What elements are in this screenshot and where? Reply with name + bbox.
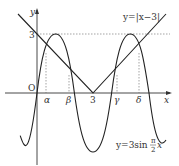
- x-axis-label: x: [164, 95, 169, 105]
- gamma-label: γ: [114, 95, 120, 105]
- graph: y x O 3 3 α β γ δ y=|x−3| y=3sin π 2 x: [0, 0, 179, 166]
- svg-text:π: π: [151, 137, 156, 145]
- sine-curve-label: y=3sin π 2 x: [115, 137, 162, 154]
- delta-label: δ: [136, 95, 141, 105]
- y-axis-arrow-icon: [35, 8, 39, 14]
- alpha-label: α: [44, 95, 50, 105]
- y-tick-3: 3: [29, 30, 35, 40]
- abs-line-label: y=|x−3|: [122, 12, 160, 23]
- svg-text:y=3sin: y=3sin: [115, 140, 148, 150]
- abs-line: [18, 14, 166, 93]
- svg-text:2: 2: [151, 146, 155, 154]
- y-axis-label: y: [29, 7, 36, 17]
- beta-label: β: [65, 95, 71, 105]
- origin-label: O: [28, 83, 35, 93]
- svg-text:x: x: [157, 140, 162, 150]
- x-tick-3: 3: [90, 95, 96, 105]
